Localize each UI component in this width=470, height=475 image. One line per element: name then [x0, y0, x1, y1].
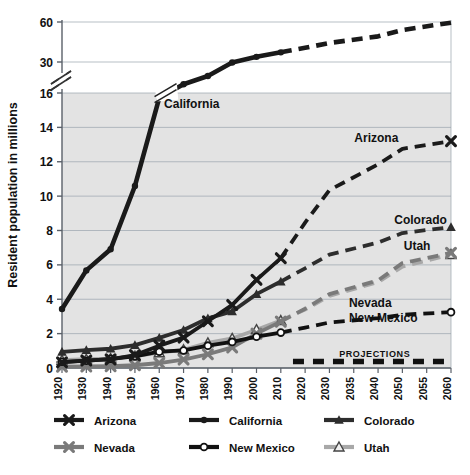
x-tick-label: 1980	[198, 377, 210, 401]
data-point-marker	[229, 59, 235, 65]
data-point-marker	[205, 73, 211, 79]
y-tick-label: 4	[46, 293, 53, 307]
x-tick-label: 2040	[368, 377, 380, 401]
data-point-marker	[448, 309, 455, 316]
x-tick-label: 1990	[222, 377, 234, 401]
legend-item-label: Colorado	[364, 415, 414, 427]
annotation-label: Utah	[404, 239, 431, 253]
legend-item-label: Utah	[364, 442, 390, 454]
x-tick-label: 2060	[441, 377, 453, 401]
x-tick-label: 2055	[417, 377, 429, 401]
x-tick-label: 1940	[101, 377, 113, 401]
data-point-marker	[277, 329, 284, 336]
data-point-marker	[229, 338, 236, 345]
y-tick-label: 14	[40, 121, 54, 135]
x-tick-label: 1930	[76, 377, 88, 401]
data-point-marker	[180, 347, 187, 354]
y-tick-label: 0	[46, 362, 53, 376]
y-tick-label: 60	[40, 16, 54, 30]
annotation-label: New Mexico	[349, 311, 418, 325]
x-tick-label: 2050	[392, 377, 404, 401]
data-point-marker	[253, 54, 259, 60]
data-point-marker	[204, 342, 211, 349]
x-tick-label: 2020	[295, 377, 307, 401]
annotation-label: Nevada	[349, 296, 392, 310]
y-tick-label: 8	[46, 224, 53, 238]
legend-item-label: Arizona	[94, 415, 137, 427]
legend-item-label: Nevada	[94, 442, 136, 454]
x-tick-label: 1950	[125, 377, 137, 401]
x-tick-label: 1960	[149, 377, 161, 401]
y-tick-label: 2	[46, 327, 53, 341]
data-point-marker	[132, 183, 138, 189]
data-point-marker	[201, 444, 208, 451]
data-point-marker	[201, 417, 207, 423]
data-point-marker	[107, 246, 113, 252]
data-point-marker	[59, 306, 65, 312]
legend-item-label: New Mexico	[229, 442, 295, 454]
annotation-label: California	[164, 97, 220, 111]
annotation-label: PROJECTIONS	[339, 349, 410, 359]
x-tick-label: 2030	[319, 377, 331, 401]
legend-item-label: California	[229, 415, 283, 427]
legend-item-nevada[interactable]: Nevada	[54, 442, 136, 454]
chart-canvas: 0246810121416306019201930194019501960197…	[0, 0, 470, 475]
x-tick-label: 1970	[174, 377, 186, 401]
data-point-marker	[83, 267, 89, 273]
y-tick-label: 12	[40, 155, 54, 169]
annotation-label: Colorado	[394, 213, 447, 227]
y-tick-label: 30	[40, 56, 54, 70]
x-tick-label: 2000	[247, 377, 259, 401]
x-tick-label: 1920	[52, 377, 64, 401]
data-point-marker	[253, 333, 260, 340]
y-tick-label: 6	[46, 258, 53, 272]
population-projection-chart: 0246810121416306019201930194019501960197…	[0, 0, 470, 475]
x-tick-label: 2010	[271, 377, 283, 401]
data-point-marker	[278, 49, 284, 55]
y-tick-label: 16	[40, 87, 54, 101]
data-point-marker	[180, 81, 186, 87]
y-tick-label: 10	[40, 190, 54, 204]
y-axis-title: Resident population in millions	[6, 102, 20, 287]
annotation-label: Arizona	[354, 131, 398, 145]
x-tick-label: 2035	[344, 377, 356, 401]
legend-item-arizona[interactable]: Arizona	[54, 415, 137, 427]
